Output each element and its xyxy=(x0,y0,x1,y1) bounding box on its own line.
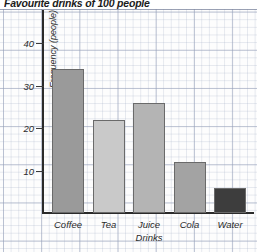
y-axis-tick-label: 30 xyxy=(14,80,34,91)
chart-title: Favourite drinks of 100 people xyxy=(4,0,254,9)
x-axis-label-line1: Tea xyxy=(101,219,117,230)
x-axis-label-line1: Juice xyxy=(138,219,160,230)
bar-water xyxy=(214,188,246,213)
y-axis-tick-label: 20 xyxy=(14,123,34,134)
x-axis-label: Cola xyxy=(170,218,210,231)
y-axis-tick-label: 10 xyxy=(14,165,34,176)
bar-juice-drinks xyxy=(133,103,165,213)
bar-coffee xyxy=(52,69,84,213)
x-axis-label: Water xyxy=(210,218,250,231)
x-axis-label-line2: Drinks xyxy=(129,231,169,244)
x-axis-label-line1: Water xyxy=(217,219,242,230)
chart-page: Favourite drinks of 100 people Frequency… xyxy=(0,0,257,252)
bar-tea xyxy=(93,120,125,213)
x-axis-label-line1: Coffee xyxy=(54,219,82,230)
y-axis-tick xyxy=(36,128,44,129)
plot-area: Frequency (people) 10203040 xyxy=(42,10,254,214)
y-axis-tick xyxy=(36,171,44,172)
y-axis-tick xyxy=(36,43,44,44)
y-axis-line xyxy=(42,10,44,214)
y-axis-tick xyxy=(36,86,44,87)
x-axis-label-line1: Cola xyxy=(180,219,200,230)
y-axis-tick-label: 40 xyxy=(14,38,34,49)
bar-cola xyxy=(174,162,206,213)
x-axis-label: Coffee xyxy=(48,218,88,231)
x-axis-label: Tea xyxy=(89,218,129,231)
x-axis-label: JuiceDrinks xyxy=(129,218,169,244)
